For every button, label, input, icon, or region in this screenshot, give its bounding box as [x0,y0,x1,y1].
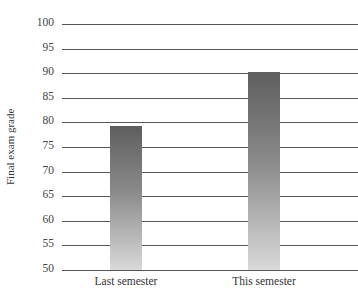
gridline [62,245,358,246]
gridline [62,172,358,173]
x-tick-label: Last semester [66,275,186,287]
y-tick-label: 90 [0,65,54,77]
y-tick-label: 50 [0,262,54,274]
gridline [62,24,358,25]
gridline [62,221,358,222]
gridline [62,196,358,197]
gridline [62,122,358,123]
gridline [62,98,358,99]
gridline [62,147,358,148]
y-tick-label: 100 [0,16,54,28]
gridline [62,270,358,271]
y-tick-label: 65 [0,188,54,200]
gridline [62,49,358,50]
gridline [62,73,358,74]
y-tick-label: 70 [0,164,54,176]
y-tick-label: 85 [0,90,54,102]
y-tick-label: 80 [0,114,54,126]
y-tick-label: 55 [0,237,54,249]
bar [248,72,280,270]
y-tick-label: 95 [0,41,54,53]
y-tick-label: 60 [0,213,54,225]
y-tick-label: 75 [0,139,54,151]
x-tick-label: This semester [204,275,324,287]
bar [110,126,142,270]
